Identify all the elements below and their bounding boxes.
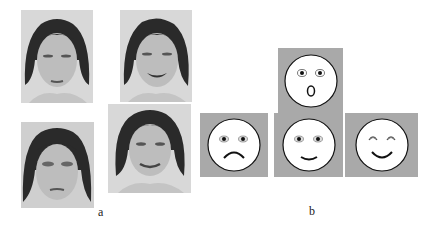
emoticon-neutral-happy <box>274 113 343 177</box>
woman-sad-face-image <box>21 122 94 208</box>
face-photo-smiling <box>108 104 191 193</box>
panel-b-label: b <box>309 204 315 219</box>
sad-face-icon <box>200 113 268 177</box>
emoticon-sad <box>200 113 268 177</box>
woman-smiling-face-image <box>108 104 191 193</box>
surprised-face-icon <box>278 48 343 113</box>
very-happy-face-icon <box>345 113 418 177</box>
panel-a-label: a <box>98 205 103 220</box>
emoticon-surprised <box>278 48 343 113</box>
neutral-happy-face-icon <box>274 113 343 177</box>
face-photo-neutral <box>21 10 93 103</box>
woman-neutral-face-image <box>21 10 93 103</box>
woman-happy-face-image <box>120 10 192 102</box>
emoticon-very-happy <box>345 113 418 177</box>
face-photo-sad <box>21 122 94 208</box>
face-photo-happy <box>120 10 192 102</box>
